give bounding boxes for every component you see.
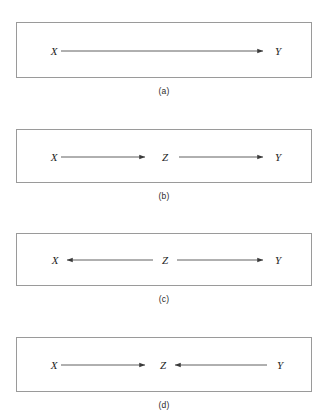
node-label-y: Y <box>275 151 283 163</box>
node-label-y: Y <box>277 359 285 371</box>
node-label-z: Z <box>162 254 169 266</box>
panel-a-box: X Y <box>16 22 312 78</box>
panel-b-caption: (b) <box>16 191 312 201</box>
node-label-x: X <box>50 45 59 57</box>
node-label-x: X <box>50 359 59 371</box>
node-label-y: Y <box>275 254 283 266</box>
panel-d-caption: (d) <box>16 400 312 410</box>
causal-diagram-figure: X Y (a) X Z Y (b) <box>0 0 330 420</box>
node-label-x: X <box>50 151 59 163</box>
panel-c-graph: X Z Y <box>17 234 311 285</box>
panel-c-box: X Z Y <box>16 233 312 286</box>
panel-d-graph: X Z Y <box>17 338 311 391</box>
panel-c-caption: (c) <box>16 294 312 304</box>
panel-b-box: X Z Y <box>16 129 312 183</box>
node-label-z: Z <box>160 359 167 371</box>
panel-b-graph: X Z Y <box>17 130 311 182</box>
node-label-z: Z <box>162 151 169 163</box>
panel-d-box: X Z Y <box>16 337 312 392</box>
node-label-x: X <box>51 254 60 266</box>
panel-a-graph: X Y <box>17 23 311 77</box>
panel-a-caption: (a) <box>16 86 312 96</box>
node-label-y: Y <box>275 45 283 57</box>
